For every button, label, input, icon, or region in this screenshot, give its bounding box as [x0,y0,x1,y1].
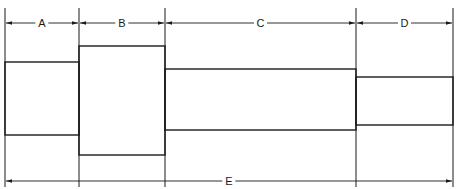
dimension-label-d: D [398,17,412,29]
drawing-canvas [0,0,460,189]
dimension-lines [6,23,452,181]
section-d [356,77,453,125]
section-a [5,62,79,135]
shaft-sections [5,46,453,155]
dimension-label-a: A [35,17,48,29]
dimension-label-b: B [115,17,128,29]
section-c [165,69,356,130]
shaft-drawing: ABCDE [0,0,460,189]
extension-lines [5,8,453,187]
section-b [79,46,165,155]
dimension-label-e: E [222,175,235,187]
dimension-label-c: C [254,17,268,29]
